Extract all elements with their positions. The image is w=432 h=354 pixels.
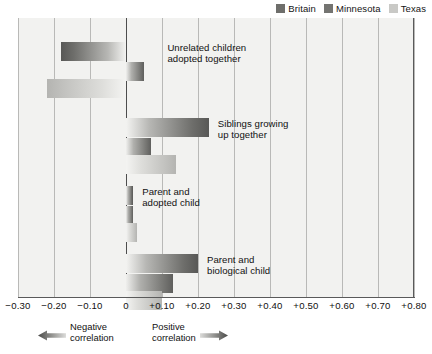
x-axis-tick-labels: −0.30−0.20−0.100+0.10+0.20+0.30+0.40+0.5… [0,300,432,316]
x-axis-line [18,297,415,298]
gridline-9 [342,18,343,298]
x-tick-label-10: +0.70 [365,300,390,311]
group-label-2: Parent and adopted child [142,186,200,208]
legend-label-britain: Britain [288,3,316,14]
arrow-right-icon [200,327,228,338]
gridline-0 [18,18,19,298]
bar-group-1-britain [126,118,209,137]
x-tick-label-1: −0.20 [41,300,66,311]
legend-entry-britain: Britain [276,3,316,14]
legend-swatch-britain [276,4,285,13]
legend-entry-texas: Texas [389,3,426,14]
x-tick-label-6: +0.30 [221,300,246,311]
gridline-10 [378,18,379,298]
legend-swatch-minnesota [324,4,333,13]
bar-group-2-britain [126,186,133,205]
bar-group-0-britain [61,42,126,61]
arrow-left-icon [38,327,66,338]
x-tick-label-3: 0 [123,300,129,311]
legend-swatch-texas [389,4,398,13]
bar-group-2-texas [126,223,137,242]
x-tick-label-2: −0.10 [77,300,102,311]
x-tick-label-5: +0.20 [185,300,210,311]
bar-group-1-texas [126,155,176,174]
legend-label-minnesota: Minnesota [336,3,381,14]
group-label-1: Siblings growing up together [218,118,289,140]
x-tick-label-9: +0.60 [329,300,354,311]
x-tick-label-4: +0.10 [149,300,174,311]
legend-label-texas: Texas [401,3,426,14]
x-tick-label-11: +0.80 [401,300,426,311]
x-tick-label-8: +0.50 [293,300,318,311]
negative-correlation-annotation: Negative correlation [38,322,114,343]
gridline-1 [54,18,55,298]
bar-group-3-britain [126,254,198,273]
x-tick-label-7: +0.40 [257,300,282,311]
correlation-direction-annotations: Negative correlation Positive correlatio… [0,320,432,354]
group-label-3: Parent and biological child [207,254,270,276]
gridline-11 [414,18,415,298]
x-tick-label-0: −0.30 [5,300,30,311]
bar-group-0-texas [47,79,126,98]
gridline-8 [306,18,307,298]
negative-correlation-label: Negative correlation [70,322,114,343]
legend-entry-minnesota: Minnesota [324,3,381,14]
positive-correlation-annotation: Positive correlation [152,322,228,343]
positive-correlation-label: Positive correlation [152,322,196,343]
group-label-0: Unrelated children adopted together [167,42,246,64]
chart-legend: BritainMinnesotaTexas [272,2,426,15]
bar-group-0-minnesota [126,62,144,81]
